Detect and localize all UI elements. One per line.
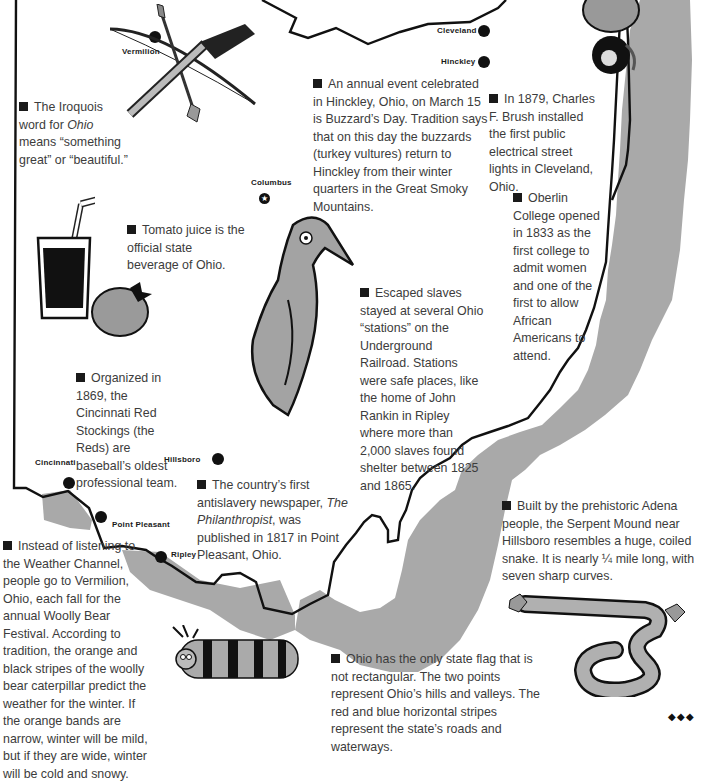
bullet-icon	[313, 79, 322, 88]
city-dot-ripley	[155, 551, 167, 563]
fact-newspaper: The country’s first antislavery newspape…	[197, 477, 352, 565]
city-dot-cleveland	[478, 25, 490, 37]
city-label-hinckley: Hinckley	[441, 57, 476, 66]
map-outline-north	[262, 0, 506, 44]
fact-reds: Organized in 1869, the Cincinnati Red St…	[76, 370, 181, 493]
bullet-icon	[489, 94, 498, 103]
tomato-icon	[90, 280, 155, 338]
bullet-icon	[502, 501, 511, 510]
city-dot-hillsboro	[212, 453, 224, 465]
fact-buzzard: An annual event celebrated in Hinckley, …	[313, 76, 488, 216]
city-label-ripley: Ripley	[171, 550, 196, 559]
tomato-juice-glass-icon	[35, 190, 95, 320]
city-dot-point-pleasant	[95, 511, 107, 523]
buzzard-icon	[243, 210, 358, 420]
star-icon: ★	[259, 193, 270, 204]
fact-iroquois: The Iroquois word for Ohio means “someth…	[19, 99, 129, 169]
city-label-columbus: Columbus	[251, 178, 292, 187]
bullet-icon	[197, 480, 206, 489]
fact-woolly-bear: Instead of listening to the Weather Chan…	[3, 538, 153, 783]
city-label-cleveland: Cleveland	[437, 26, 477, 35]
street-light-bell-icon	[578, 0, 648, 75]
bullet-icon	[513, 193, 522, 202]
city-label-point-pleasant: Point Pleasant	[112, 520, 170, 529]
page-mark: ◆◆◆	[668, 711, 695, 722]
fact-serpent-mound: Built by the prehistoric Adena people, t…	[502, 498, 702, 586]
rifle-and-bow-icon	[105, 4, 265, 124]
city-dot-cincinnati	[63, 477, 75, 489]
fact-railroad: Escaped slaves stayed at several Ohio “s…	[360, 285, 485, 495]
bullet-icon	[127, 225, 136, 234]
bullet-icon	[76, 373, 85, 382]
fact-brush: In 1879, Charles F. Brush installed the …	[489, 91, 604, 196]
bullet-icon	[331, 654, 340, 663]
fact-oberlin: Oberlin College opened in 1833 as the fi…	[513, 190, 601, 365]
woolly-bear-caterpillar-icon	[168, 625, 303, 685]
bullet-icon	[19, 102, 28, 111]
fact-flag: Ohio has the only state flag that is not…	[331, 651, 546, 756]
bullet-icon	[360, 288, 369, 297]
bullet-icon	[3, 541, 12, 550]
city-label-cincinnati: Cincinnati	[35, 458, 76, 467]
city-dot-hinckley	[478, 56, 490, 68]
fact-tomato: Tomato juice is the official state bever…	[127, 222, 247, 275]
